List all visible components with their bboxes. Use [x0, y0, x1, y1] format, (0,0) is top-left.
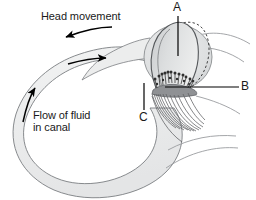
callout-label-a: A [173, 1, 181, 14]
arrow-head-movement [66, 27, 112, 37]
diagram-canvas: Head movement Flow of fluidin canal A B … [0, 0, 256, 200]
head-movement-arrow-path [66, 27, 112, 37]
label-flow-line-1: Flow of fluid [33, 109, 90, 121]
callout-label-c: C [139, 111, 148, 124]
label-head-movement: Head movement [41, 11, 120, 23]
strand-lower-right [196, 96, 240, 114]
label-flow-of-fluid: Flow of fluidin canal [33, 110, 90, 133]
label-flow-line-2: in canal [33, 121, 70, 133]
callout-label-b: B [241, 80, 249, 93]
semicircular-canal-illustration [0, 0, 256, 200]
